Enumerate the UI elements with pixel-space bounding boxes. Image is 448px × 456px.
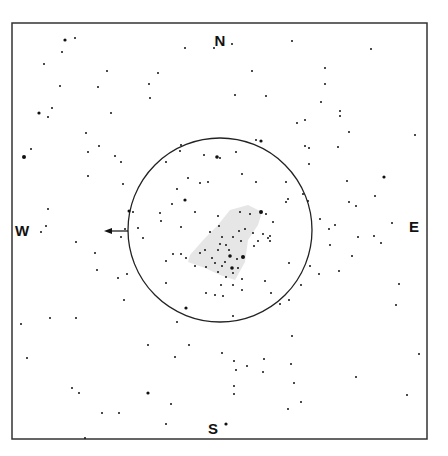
star	[51, 107, 53, 109]
star	[217, 271, 219, 273]
star	[304, 119, 306, 121]
star	[339, 110, 341, 112]
star	[214, 294, 216, 296]
star	[300, 284, 302, 286]
star	[221, 236, 223, 238]
star	[293, 382, 295, 384]
star	[87, 151, 89, 153]
star	[348, 201, 350, 203]
star	[406, 394, 408, 396]
star	[318, 273, 320, 275]
star	[180, 144, 182, 146]
arrow-head-icon	[104, 228, 112, 234]
star	[123, 299, 125, 301]
star	[251, 70, 253, 72]
star	[255, 181, 257, 183]
star	[98, 145, 100, 147]
star	[214, 262, 216, 264]
star	[172, 253, 174, 255]
star	[309, 265, 311, 267]
star	[22, 155, 26, 159]
star	[74, 37, 76, 39]
star	[233, 393, 235, 395]
star	[234, 94, 236, 96]
star	[220, 284, 222, 286]
star	[370, 48, 372, 50]
star	[61, 51, 63, 53]
star	[319, 218, 321, 220]
star	[199, 182, 201, 184]
star	[59, 85, 61, 87]
star	[215, 155, 219, 159]
star	[252, 232, 254, 234]
star	[348, 131, 350, 133]
star	[346, 180, 348, 182]
star	[290, 363, 292, 365]
star	[176, 321, 178, 323]
star	[97, 86, 99, 88]
star	[334, 224, 336, 226]
star	[30, 148, 32, 150]
star	[237, 267, 239, 269]
star	[132, 211, 134, 213]
star	[307, 200, 309, 202]
star	[219, 243, 221, 245]
star	[184, 306, 187, 309]
star	[170, 403, 172, 405]
star	[240, 240, 242, 242]
star	[287, 198, 289, 200]
star	[285, 201, 287, 203]
star	[232, 315, 234, 317]
star	[185, 257, 187, 259]
star	[308, 163, 310, 165]
star	[380, 242, 382, 244]
star	[204, 249, 206, 251]
star	[221, 265, 223, 267]
star-finder-chart	[0, 0, 448, 456]
star	[85, 132, 87, 134]
star	[87, 175, 89, 177]
nebula-patch	[188, 205, 262, 280]
star	[165, 282, 167, 284]
star	[176, 188, 178, 190]
star	[246, 365, 248, 367]
star	[329, 244, 331, 246]
star	[194, 211, 196, 213]
star	[339, 115, 341, 117]
star	[84, 437, 86, 439]
star	[75, 317, 77, 319]
star	[263, 358, 265, 360]
star	[188, 344, 190, 346]
star	[262, 371, 264, 373]
star	[199, 252, 201, 254]
star	[179, 150, 181, 152]
star	[296, 122, 298, 124]
star	[122, 183, 124, 185]
star	[218, 225, 220, 227]
star	[391, 222, 393, 224]
star	[47, 208, 49, 210]
star	[357, 236, 359, 238]
star	[232, 236, 234, 238]
star	[117, 277, 119, 279]
star	[209, 231, 211, 233]
star	[414, 134, 416, 136]
star	[26, 357, 28, 359]
star	[337, 146, 339, 148]
star	[269, 235, 271, 237]
star	[165, 423, 167, 425]
star	[304, 145, 306, 147]
star	[241, 173, 243, 175]
star	[106, 70, 108, 72]
star	[180, 253, 182, 255]
star	[239, 211, 241, 213]
star	[398, 283, 400, 285]
star	[232, 284, 234, 286]
star	[194, 265, 196, 267]
star	[255, 139, 257, 141]
star	[124, 228, 126, 230]
star	[180, 226, 182, 228]
star	[235, 369, 237, 371]
star	[291, 335, 293, 337]
star	[288, 299, 290, 301]
